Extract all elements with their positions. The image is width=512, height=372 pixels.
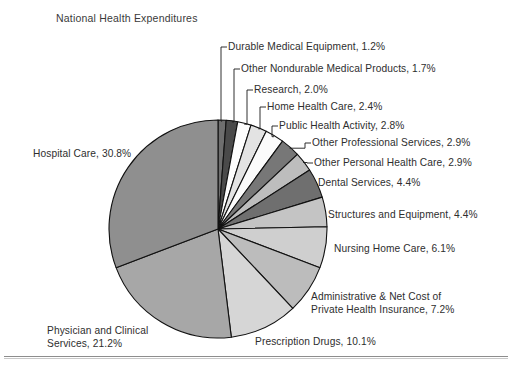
pie-slice-group — [109, 120, 327, 338]
callout-line-1: Physician and Clinical — [47, 325, 148, 338]
leader-line-other-nondurable-medical-products — [232, 69, 240, 122]
callout-label-other-personal-health-care: Other Personal Health Care, 2.9% — [314, 157, 472, 169]
callout-label-other-nondurable-medical-products: Other Nondurable Medical Products, 1.7% — [241, 63, 436, 75]
bottom-divider-shadow — [4, 358, 508, 359]
leader-line-other-personal-health-care — [303, 163, 313, 164]
callout-label-nursing-home-care: Nursing Home Care, 6.1% — [334, 243, 455, 255]
bottom-divider — [4, 356, 508, 357]
callout-label-other-professional-services: Other Professional Services, 2.9% — [312, 137, 470, 149]
callout-line-2: Services, 21.2% — [47, 338, 148, 351]
leader-line-other-professional-services — [290, 143, 311, 148]
leader-line-home-health-care — [258, 107, 266, 129]
callout-label-research: Research, 2.0% — [254, 84, 328, 96]
callout-line-2: Private Health Insurance, 7.2% — [311, 304, 454, 317]
callout-label-physician-and-clinical-services: Physician and ClinicalServices, 21.2% — [47, 325, 148, 350]
callout-label-dental-services: Dental Services, 4.4% — [318, 177, 420, 189]
leader-line-research — [244, 90, 253, 124]
callout-line-1: Administrative & Net Cost of — [311, 291, 454, 304]
pie-chart-figure: National Health Expenditures Durable Med… — [0, 0, 512, 372]
pie-chart-canvas — [0, 0, 512, 372]
callout-label-home-health-care: Home Health Care, 2.4% — [267, 101, 382, 113]
callout-label-durable-medical-equipment: Durable Medical Equipment, 1.2% — [228, 41, 385, 53]
leader-line-durable-medical-equipment — [221, 47, 227, 121]
callout-label-hospital-care: Hospital Care, 30.8% — [33, 148, 131, 160]
callout-label-structures-and-equipment: Structures and Equipment, 4.4% — [328, 209, 478, 221]
callout-label-prescription-drugs: Prescription Drugs, 10.1% — [255, 336, 376, 348]
callout-label-public-health-activity: Public Health Activity, 2.8% — [279, 120, 404, 132]
callout-label-administrative-net-cost: Administrative & Net Cost ofPrivate Heal… — [311, 291, 454, 316]
